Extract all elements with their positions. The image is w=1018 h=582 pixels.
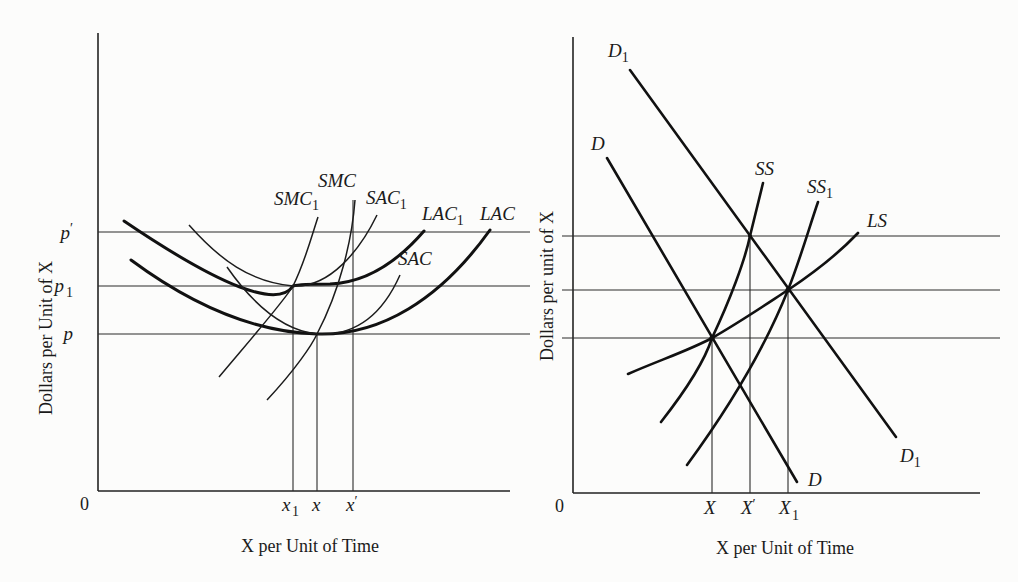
label-ss: SS xyxy=(755,158,775,179)
price-label-p-prime: p′ xyxy=(58,221,73,243)
smc-curve xyxy=(267,200,355,400)
left-y-axis-title: Dollars per Unit of X xyxy=(36,261,56,415)
quantity-label-X1-sub: 1 xyxy=(792,508,799,523)
quantity-label-X1: X xyxy=(778,497,792,518)
label-smc: SMC xyxy=(318,170,356,191)
quantity-label-x1-sub: 1 xyxy=(292,504,299,519)
lac-curve xyxy=(131,230,490,334)
label-sac: SAC xyxy=(398,248,432,269)
quantity-label-X-prime: X′ xyxy=(740,497,756,518)
label-d-top: D xyxy=(590,133,605,154)
label-ls: LS xyxy=(866,210,888,231)
right-x-axis-title: X per Unit of Time xyxy=(716,538,854,558)
label-d1-top: D1 xyxy=(607,40,629,65)
equilibrium-point-initial xyxy=(709,335,714,340)
demand-curve-d1 xyxy=(630,70,896,437)
demand-curve-d xyxy=(607,158,797,482)
economics-diagram: p′ p 1 p 0 x 1 x x′ X per Unit of Time D… xyxy=(0,0,1018,582)
label-lac1: LAC1 xyxy=(421,203,464,228)
quantity-label-x1: x xyxy=(281,494,291,515)
quantity-label-x: x xyxy=(311,494,321,515)
right-panel-supply-demand: 0 X X′ X 1 X per Unit of Time Dollars pe… xyxy=(537,37,1000,558)
label-d1-bottom: D1 xyxy=(899,445,921,470)
quantity-label-x-prime: x′ xyxy=(345,494,358,515)
left-origin-label: 0 xyxy=(80,494,89,514)
equilibrium-point-long-run xyxy=(785,287,790,292)
label-ss1: SS1 xyxy=(807,176,833,201)
label-lac: LAC xyxy=(479,203,515,224)
equilibrium-point-short-run xyxy=(748,234,752,238)
price-label-p1-sub: 1 xyxy=(66,285,73,300)
left-panel-cost-curves: p′ p 1 p 0 x 1 x x′ X per Unit of Time D… xyxy=(36,33,530,556)
right-y-axis-title: Dollars per unit of X xyxy=(537,211,557,361)
label-sac1: SAC1 xyxy=(366,187,407,212)
supply-curve-ss1 xyxy=(687,202,818,465)
label-smc1: SMC1 xyxy=(274,188,319,213)
left-x-axis-title-full: X per Unit of Time xyxy=(241,536,379,556)
price-label-p: p xyxy=(62,323,74,344)
smc1-curve xyxy=(219,217,318,377)
quantity-label-X: X xyxy=(703,497,717,518)
label-d-bottom: D xyxy=(807,469,822,490)
right-origin-label: 0 xyxy=(555,496,564,516)
